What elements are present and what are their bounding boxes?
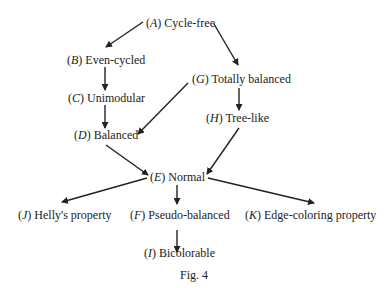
edges-layer	[0, 0, 388, 288]
node-G-totally-balanced: (G) Totally balanced	[192, 72, 291, 86]
node-A-cycle-free: (A) Cycle-free	[146, 16, 215, 30]
node-K-edge-coloring-property: (K) Edge-coloring property	[245, 208, 376, 222]
node-J-hellys-property: (J) Helly's property	[18, 208, 111, 222]
edge-A-B	[106, 22, 143, 47]
edge-G-D	[138, 83, 188, 134]
node-E-normal: (E) Normal	[150, 170, 205, 184]
edge-H-E	[207, 128, 239, 174]
node-F-pseudo-balanced: (F) Pseudo-balanced	[130, 208, 230, 222]
edge-E-K	[208, 178, 314, 203]
edge-E-J	[62, 178, 147, 202]
node-C-unimodular: (C) Unimodular	[68, 91, 145, 105]
figure-caption: Fig. 4	[180, 268, 208, 283]
node-B-even-cycled: (B) Even-cycled	[67, 53, 145, 67]
edge-A-G	[214, 24, 238, 65]
node-D-balanced: (D) Balanced	[74, 128, 138, 142]
node-H-tree-like: (H) Tree-like	[206, 111, 269, 125]
node-I-bicolorable: (I) Bicolorable	[144, 246, 215, 260]
edge-D-E	[106, 145, 148, 175]
